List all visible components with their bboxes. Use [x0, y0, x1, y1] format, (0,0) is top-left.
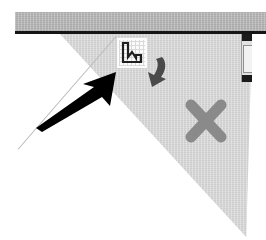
redo-arrow-glyph: [142, 55, 170, 89]
scroll-down-button[interactable]: [242, 75, 252, 82]
pointer-arrow: [36, 72, 120, 132]
close-x-icon[interactable]: [183, 98, 229, 144]
toolbar-texture: [15, 12, 266, 31]
toolbar-bottom-rule: [15, 31, 266, 34]
pointer-arrow-glyph: [36, 72, 120, 132]
right-gutter: [252, 34, 266, 240]
top-toolbar-strip[interactable]: [15, 12, 266, 31]
close-x-glyph: [183, 98, 229, 144]
chart-icon-glyph: [120, 41, 144, 65]
screenshot-root: [0, 0, 266, 240]
redo-arrow-icon[interactable]: [142, 55, 170, 89]
scroll-up-button[interactable]: [242, 34, 252, 41]
